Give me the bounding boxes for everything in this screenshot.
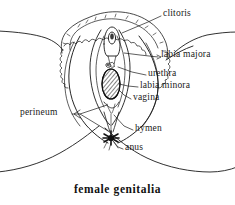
leader-clitoris xyxy=(122,16,161,33)
buttock-left xyxy=(0,126,99,172)
leader-vagina xyxy=(119,90,131,99)
leader-urethra xyxy=(118,67,146,75)
clitoral-frenulum xyxy=(108,56,116,66)
label-labia-minora: labia minora xyxy=(140,81,190,91)
figure-caption: female genitalia xyxy=(0,183,235,195)
vestibule-left xyxy=(96,36,104,107)
female-genitalia-figure: clitoris labia majora urethra labia mino… xyxy=(0,0,235,205)
anatomical-line-drawing xyxy=(0,0,235,205)
label-hymen: hymen xyxy=(135,124,162,134)
label-perineum: perineum xyxy=(20,108,57,118)
leader-perineum xyxy=(72,105,108,131)
urethral-opening xyxy=(106,62,115,67)
pubic-hair-left-edge xyxy=(60,50,68,88)
vestibule-right xyxy=(117,36,125,107)
clitoral-glans-core xyxy=(110,34,114,40)
anus xyxy=(103,131,119,150)
thigh-left xyxy=(0,31,63,50)
label-labia-majora: labia majora xyxy=(161,50,211,60)
label-vagina: vagina xyxy=(133,93,160,103)
label-urethra: urethra xyxy=(148,69,176,79)
label-clitoris: clitoris xyxy=(163,9,191,19)
hymen xyxy=(104,102,119,113)
pubic-hair-ticks xyxy=(63,14,166,51)
label-anus: anus xyxy=(125,143,143,153)
vaginal-opening xyxy=(102,69,120,99)
